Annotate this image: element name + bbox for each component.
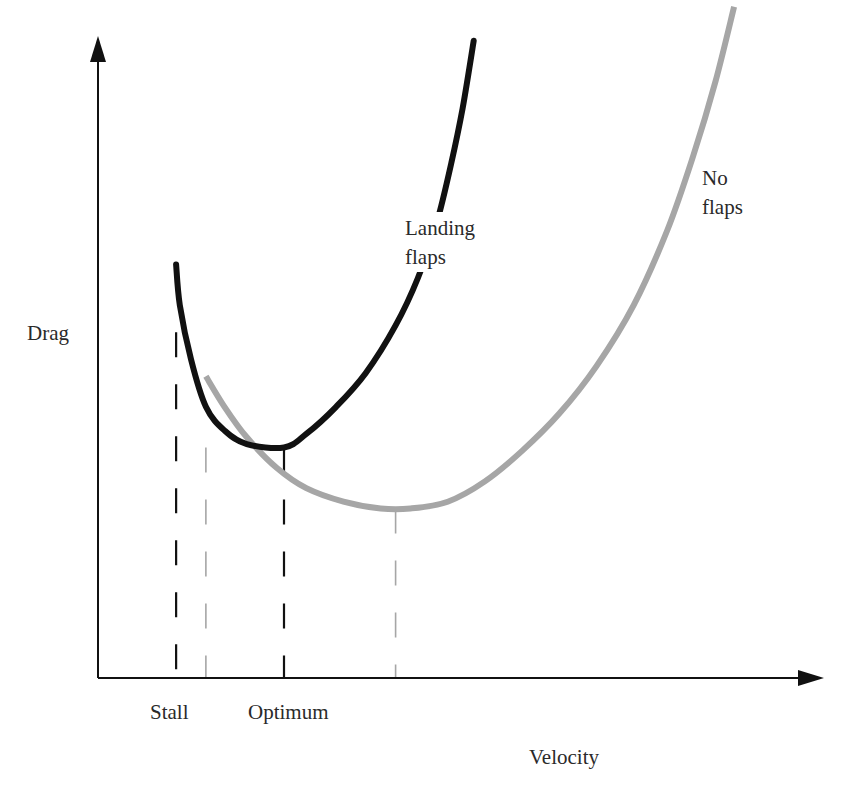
annotation-optimum: Optimum xyxy=(248,700,329,724)
y-axis-label: Drag xyxy=(27,321,69,345)
series-label-landing-flaps-line2: flaps xyxy=(405,245,446,269)
x-axis-label: Velocity xyxy=(529,745,599,769)
annotation-stall: Stall xyxy=(150,700,189,724)
curves xyxy=(176,7,756,510)
drag-velocity-chart: Drag Velocity Stall Optimum Landing flap… xyxy=(0,0,842,796)
x-axis-arrow-icon xyxy=(798,670,824,686)
series-label-no-flaps-line2: flaps xyxy=(702,195,743,219)
series-label-no-flaps-line1: No xyxy=(702,166,728,190)
y-axis-arrow-icon xyxy=(90,36,106,62)
series-label-landing-flaps-line1: Landing xyxy=(405,216,475,240)
